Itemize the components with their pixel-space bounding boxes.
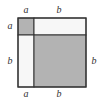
square-diagram bbox=[0, 0, 100, 100]
region-ab-left bbox=[18, 35, 34, 87]
region-b-squared bbox=[34, 35, 86, 87]
label-top-a: a bbox=[21, 5, 31, 15]
label-left-b: b bbox=[5, 56, 15, 66]
label-right-b: b bbox=[89, 56, 99, 66]
label-bottom-b: b bbox=[54, 89, 64, 99]
label-top-b: b bbox=[54, 5, 64, 15]
label-left-a: a bbox=[5, 21, 15, 31]
label-bottom-a: a bbox=[21, 89, 31, 99]
region-a-squared bbox=[18, 18, 34, 35]
region-ab-top bbox=[34, 18, 86, 35]
